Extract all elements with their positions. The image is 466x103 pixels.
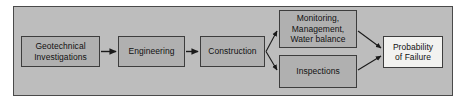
node-inspections: Inspections — [279, 55, 357, 88]
node-geotechnical-investigations: Geotechnical Investigations — [21, 36, 100, 67]
node-line: Geotechnical — [24, 41, 97, 52]
node-line: Probability — [386, 42, 440, 53]
node-line: Investigations — [24, 52, 97, 63]
node-construction: Construction — [200, 36, 265, 67]
node-line: Engineering — [121, 46, 182, 57]
node-engineering: Engineering — [118, 36, 185, 67]
node-line: Inspections — [282, 66, 354, 77]
node-line: Water balance — [282, 34, 354, 45]
node-probability-of-failure: Probability of Failure — [383, 36, 443, 68]
node-line: of Failure — [386, 52, 440, 63]
node-line: Construction — [203, 46, 262, 57]
node-monitoring-management-water-balance: Monitoring, Management, Water balance — [279, 10, 357, 48]
node-line: Management, — [282, 24, 354, 35]
flowchart-figure: Geotechnical Investigations Engineering … — [0, 0, 466, 103]
node-line: Monitoring, — [282, 13, 354, 24]
